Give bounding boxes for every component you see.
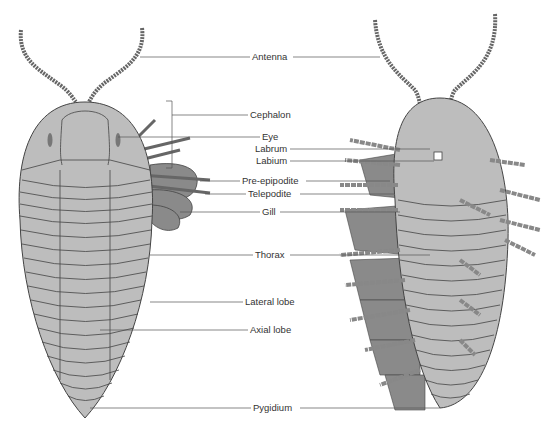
label-labium: Labium [255, 155, 288, 166]
label-cephalon: Cephalon [249, 109, 292, 120]
dorsal-view [19, 28, 210, 418]
label-thorax: Thorax [254, 249, 286, 260]
dorsal-body [19, 102, 152, 418]
label-axial-lobe: Axial lobe [249, 324, 292, 335]
label-pygidium: Pygidium [252, 402, 293, 413]
label-pre-epipodite: Pre-epipodite [241, 175, 300, 186]
label-telepodite: Telepodite [247, 188, 292, 199]
label-eye: Eye [261, 131, 279, 142]
antenna-left [21, 30, 76, 102]
label-gill: Gill [261, 206, 277, 217]
antenna-right [89, 28, 142, 102]
label-lateral-lobe: Lateral lobe [244, 296, 296, 307]
trilobite-diagram [0, 0, 548, 434]
eye-right [116, 133, 121, 147]
label-labrum: Labrum [254, 143, 288, 154]
labium-mark [434, 152, 442, 160]
eye-left [48, 133, 53, 147]
label-antenna: Antenna [251, 51, 288, 62]
